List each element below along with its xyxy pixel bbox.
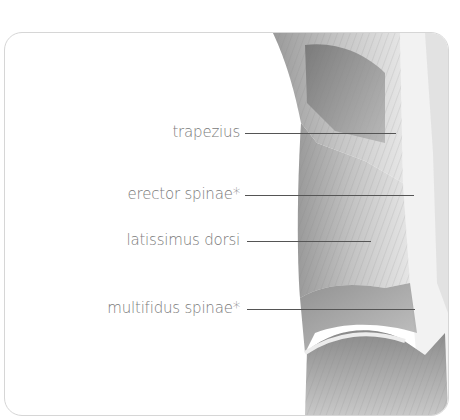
label-erector-spinae: erector spinae* (128, 185, 240, 203)
label-latissimus-dorsi: latissimus dorsi (126, 231, 240, 249)
back-muscles-illustration (5, 33, 448, 415)
leader-line-latissimus-dorsi (247, 241, 371, 242)
leader-line-multifidus-spinae (247, 309, 415, 310)
leader-line-erector-spinae (245, 195, 414, 196)
label-multifidus-spinae: multifidus spinae* (107, 299, 240, 317)
label-trapezius: trapezius (172, 123, 240, 141)
diagram-card: trapezius erector spinae* latissimus dor… (4, 32, 449, 416)
leader-line-trapezius (245, 133, 396, 134)
